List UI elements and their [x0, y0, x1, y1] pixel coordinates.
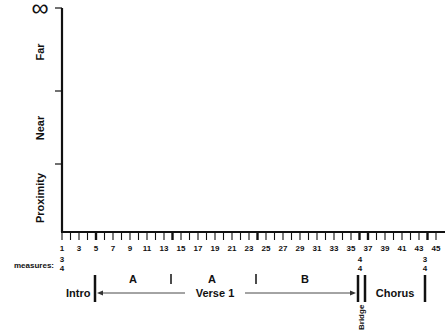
subsection-a1: A: [129, 273, 137, 285]
near-label: Near: [34, 115, 46, 140]
svg-text:5: 5: [94, 244, 99, 253]
verse-label: Verse 1: [196, 287, 235, 299]
ts2-bottom: 4: [358, 264, 363, 273]
svg-text:43: 43: [415, 244, 424, 253]
ts1-bottom: 4: [60, 264, 65, 273]
proximity-label: Proximity: [34, 172, 46, 223]
svg-text:1: 1: [60, 244, 65, 253]
svg-text:13: 13: [160, 244, 169, 253]
infinity-symbol: ∞: [31, 0, 48, 21]
svg-text:27: 27: [279, 244, 288, 253]
svg-text:7: 7: [111, 244, 116, 253]
svg-text:25: 25: [262, 244, 271, 253]
svg-text:31: 31: [313, 244, 322, 253]
svg-text:39: 39: [381, 244, 390, 253]
svg-text:19: 19: [211, 244, 220, 253]
intro-label: Intro: [66, 287, 91, 299]
x-tick-labels: 1357911131517192123252729313335373941434…: [60, 244, 441, 253]
svg-text:45: 45: [432, 244, 441, 253]
svg-text:33: 33: [330, 244, 339, 253]
svg-text:29: 29: [296, 244, 305, 253]
svg-text:21: 21: [228, 244, 237, 253]
arrow-right-icon: [350, 291, 356, 296]
ts3-bottom: 4: [423, 264, 428, 273]
svg-text:9: 9: [128, 244, 133, 253]
x-ticks: [62, 232, 436, 240]
svg-text:3: 3: [77, 244, 82, 253]
svg-text:41: 41: [398, 244, 407, 253]
subsection-a2: A: [208, 273, 216, 285]
svg-text:17: 17: [194, 244, 203, 253]
svg-text:11: 11: [143, 244, 152, 253]
bridge-label: Bridge: [357, 304, 366, 330]
arrow-left-icon: [97, 291, 103, 296]
ts2-top: 4: [358, 255, 363, 264]
ts1-top: 3: [60, 255, 65, 264]
measures-label: measures:: [14, 261, 54, 270]
far-label: Far: [34, 43, 46, 61]
ts3-top: 3: [423, 255, 428, 264]
svg-text:23: 23: [245, 244, 254, 253]
svg-text:37: 37: [364, 244, 373, 253]
chorus-label: Chorus: [376, 287, 415, 299]
subsection-b: B: [301, 273, 309, 285]
form-diagram: 1357911131517192123252729313335373941434…: [0, 0, 447, 334]
svg-text:15: 15: [177, 244, 186, 253]
svg-text:35: 35: [347, 244, 356, 253]
